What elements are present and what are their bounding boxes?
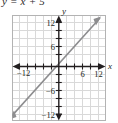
y-axis-label: y xyxy=(61,6,66,16)
coordinate-graph-figure: y = x + 5 xyxy=(0,0,118,123)
x-axis-label: x xyxy=(107,61,112,71)
y-tick-label-12: 12 xyxy=(47,18,56,28)
y-tick-label-6: 6 xyxy=(51,42,55,52)
coordinate-plane-svg: x y −12 6 12 12 6 −6 −12 xyxy=(0,0,118,123)
x-tick-label-12: 12 xyxy=(94,69,103,79)
y-tick-label-neg6: −6 xyxy=(46,86,55,96)
x-tick-label-6: 6 xyxy=(80,69,84,79)
x-tick-label-neg12: −12 xyxy=(17,68,30,78)
y-tick-label-neg12: −12 xyxy=(42,110,55,120)
